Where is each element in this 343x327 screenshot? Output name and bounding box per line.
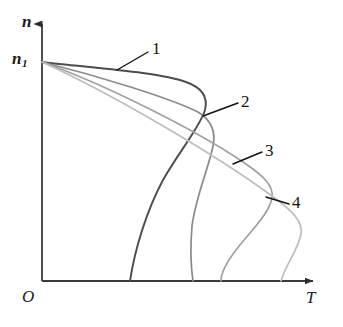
n1-subscript: 1 xyxy=(22,57,28,69)
figure-container: n n1 O T 1 2 3 4 xyxy=(0,0,343,327)
y-axis-label: n xyxy=(22,13,31,30)
curve-label-2: 2 xyxy=(241,93,250,110)
leader-line-2 xyxy=(203,103,238,116)
curve-label-1: 1 xyxy=(152,40,161,57)
curve-label-4: 4 xyxy=(292,194,301,211)
curves-group xyxy=(42,62,301,281)
plot-canvas xyxy=(0,0,343,327)
curve-label-3: 3 xyxy=(265,142,274,159)
curve-2 xyxy=(42,62,214,281)
origin-label: O xyxy=(22,288,34,305)
y-axis-tick-label-n1: n1 xyxy=(12,50,27,67)
leader-line-4 xyxy=(266,197,289,204)
n1-base: n xyxy=(12,49,21,68)
x-axis-label: T xyxy=(306,289,315,306)
curve-4 xyxy=(42,62,301,281)
leader-line-1 xyxy=(117,52,148,70)
curve-1 xyxy=(42,62,206,281)
